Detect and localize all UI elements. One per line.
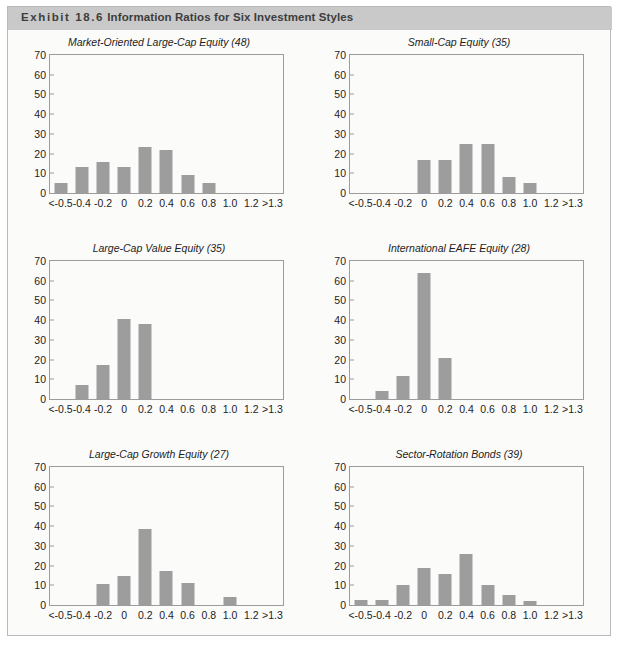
histogram-bin — [177, 467, 198, 605]
x-axis-tick-label: 0.8 — [502, 609, 517, 621]
histogram-bin — [562, 55, 583, 193]
histogram-bar — [139, 147, 152, 193]
histogram-bar — [118, 319, 131, 399]
x-axis-tick-label: 0.4 — [459, 609, 474, 621]
histogram-bin — [177, 261, 198, 399]
histogram-bar — [54, 183, 67, 193]
x-axis-tick-label: 1.0 — [223, 403, 238, 415]
histogram-bin — [219, 261, 240, 399]
chart-title: Small-Cap Equity (35) — [308, 36, 610, 48]
histogram-bar — [224, 597, 237, 605]
histogram-bar — [96, 365, 109, 400]
histogram-bin — [371, 467, 392, 605]
histogram-bin — [498, 467, 519, 605]
histogram-bin — [50, 467, 71, 605]
y-axis-tick-label: 70 — [34, 461, 46, 473]
x-axis-tick-label: 1.0 — [523, 403, 538, 415]
histogram-bin — [456, 261, 477, 399]
chart-panel: Market-Oriented Large-Cap Equity (48)010… — [8, 36, 310, 238]
plot-area: 010203040506070<-0.5-0.4-0.200.20.40.60.… — [49, 466, 284, 606]
histogram-bar — [481, 144, 494, 193]
histogram-bar — [460, 144, 473, 193]
y-axis-tick-label: 10 — [34, 167, 46, 179]
x-axis-tick-label: 1.2 — [244, 609, 259, 621]
histogram-bar — [75, 385, 88, 399]
histogram-bin — [477, 55, 498, 193]
histogram-bin — [114, 55, 135, 193]
x-axis-tick-label: -0.2 — [94, 609, 112, 621]
x-axis-tick-label: 0.2 — [138, 403, 153, 415]
y-axis-tick-label: 60 — [334, 481, 346, 493]
y-axis-tick-label: 10 — [334, 167, 346, 179]
y-axis-tick-label: 70 — [34, 49, 46, 61]
chart-panel: Large-Cap Value Equity (35)0102030405060… — [8, 242, 310, 444]
chart-panel: Sector-Rotation Bonds (39)01020304050607… — [308, 448, 610, 648]
plot-inner: 010203040506070<-0.5-0.4-0.200.20.40.60.… — [350, 467, 583, 605]
x-axis-tick-label: 0 — [121, 197, 127, 209]
x-axis-tick-label: 0.6 — [480, 197, 495, 209]
histogram-bin — [135, 261, 156, 399]
y-axis-tick-label: 0 — [40, 187, 46, 199]
chart-title: International EAFE Equity (28) — [308, 242, 610, 254]
plot-inner: 010203040506070<-0.5-0.4-0.200.20.40.60.… — [350, 261, 583, 399]
histogram-bin — [156, 467, 177, 605]
x-axis-tick-label: 0.6 — [180, 403, 195, 415]
histogram-bar — [524, 183, 537, 193]
histogram-bin — [392, 261, 413, 399]
x-axis-tick-label: 1.2 — [544, 609, 559, 621]
histogram-bin — [350, 55, 371, 193]
y-axis-tick-label: 20 — [334, 148, 346, 160]
plot-inner: 010203040506070<-0.5-0.4-0.200.20.40.60.… — [50, 261, 283, 399]
x-axis-tick-label: -0.4 — [73, 403, 91, 415]
histogram-bin — [241, 261, 262, 399]
y-axis-tick-label: 50 — [34, 294, 46, 306]
x-axis-tick-label: 1.2 — [544, 197, 559, 209]
histogram-bar — [502, 595, 515, 605]
exhibit-title-text: Information Ratios for Six Investment St… — [107, 11, 353, 23]
plot-inner: 010203040506070<-0.5-0.4-0.200.20.40.60.… — [50, 467, 283, 605]
x-axis-tick-label: 0.2 — [138, 197, 153, 209]
y-axis-tick-label: 20 — [34, 560, 46, 572]
exhibit-container: Exhibit 18.6 Information Ratios for Six … — [7, 6, 611, 636]
y-axis-tick-label: 30 — [34, 334, 46, 346]
x-axis-tick-label: -0.4 — [373, 609, 391, 621]
histogram-bar — [396, 585, 409, 605]
histogram-bin — [435, 261, 456, 399]
histogram-bin — [92, 261, 113, 399]
histogram-bar — [375, 600, 388, 605]
x-axis-tick-label: 0.6 — [180, 609, 195, 621]
histogram-bin — [50, 261, 71, 399]
y-axis-tick-label: 30 — [334, 334, 346, 346]
x-axis-tick-label: 0.8 — [502, 403, 517, 415]
histogram-bin — [392, 55, 413, 193]
x-axis-tick-label: -0.2 — [394, 197, 412, 209]
histogram-bin — [562, 261, 583, 399]
y-axis-tick-label: 50 — [34, 88, 46, 100]
x-axis-tick-label: 0.6 — [180, 197, 195, 209]
histogram-bin — [198, 261, 219, 399]
y-axis-tick-label: 30 — [334, 128, 346, 140]
x-axis-tick-label: 0.4 — [159, 609, 174, 621]
x-axis-tick-label: <-0.5 — [48, 197, 72, 209]
histogram-bar — [460, 554, 473, 605]
histogram-bin — [371, 55, 392, 193]
x-axis-tick-label: 0.2 — [138, 609, 153, 621]
x-axis-tick-label: 0.2 — [438, 403, 453, 415]
histogram-bar — [418, 273, 431, 399]
histogram-bar — [181, 583, 194, 605]
x-axis-tick-label: >1.3 — [562, 403, 583, 415]
y-axis-tick-label: 20 — [334, 560, 346, 572]
y-axis-tick-label: 0 — [340, 393, 346, 405]
histogram-bin — [198, 467, 219, 605]
histogram-bar — [439, 160, 452, 194]
x-axis-tick-label: 0.6 — [480, 403, 495, 415]
y-axis-tick-label: 10 — [334, 579, 346, 591]
x-axis-tick-label: 1.0 — [223, 609, 238, 621]
x-axis-tick-label: >1.3 — [262, 609, 283, 621]
histogram-bar — [96, 162, 109, 193]
y-axis-tick-label: 40 — [34, 314, 46, 326]
histogram-bin — [435, 55, 456, 193]
x-axis-tick-label: 0.2 — [438, 609, 453, 621]
histogram-bar — [139, 324, 152, 399]
y-axis-tick-label: 20 — [34, 148, 46, 160]
